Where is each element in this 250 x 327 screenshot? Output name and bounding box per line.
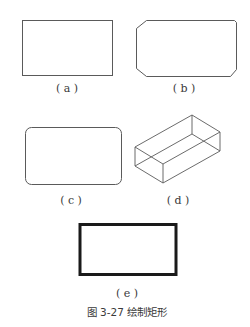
panel-label-b: ( b ) — [173, 82, 196, 95]
panel-b: ( b ) — [137, 21, 237, 96]
panel-a: ( a ) — [23, 21, 113, 96]
panel-label-d: ( d ) — [167, 194, 190, 207]
panel-c: ( c ) — [26, 128, 122, 208]
panel-label-e: ( e ) — [116, 287, 138, 300]
box-top-face — [135, 115, 220, 164]
figure-canvas: ( a ) ( b ) ( c ) ( d ) ( e ) 图 3-27 绘制矩… — [0, 0, 250, 327]
panel-label-a: ( a ) — [56, 82, 78, 95]
filleted-rectangle — [26, 128, 122, 185]
panel-e: ( e ) — [80, 225, 176, 301]
plain-rectangle — [23, 21, 113, 76]
panel-label-c: ( c ) — [60, 194, 82, 207]
panel-d: ( d ) — [135, 115, 220, 207]
thick-width-rectangle — [80, 225, 176, 275]
figure-caption: 图 3-27 绘制矩形 — [87, 306, 169, 318]
chamfered-rectangle — [137, 21, 237, 77]
